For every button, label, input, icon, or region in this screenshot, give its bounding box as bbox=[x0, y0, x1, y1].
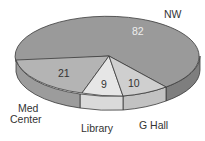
nw-label: NW bbox=[164, 8, 182, 20]
center-label: Center bbox=[10, 113, 42, 125]
ghall-value-label: 10 bbox=[128, 77, 140, 89]
ghall-label: G Hall bbox=[139, 119, 168, 131]
library-value-label: 9 bbox=[101, 78, 107, 90]
nw-value-label: 82 bbox=[132, 25, 144, 37]
library-label: Library bbox=[81, 122, 113, 134]
med-center-value-label: 21 bbox=[58, 67, 70, 79]
